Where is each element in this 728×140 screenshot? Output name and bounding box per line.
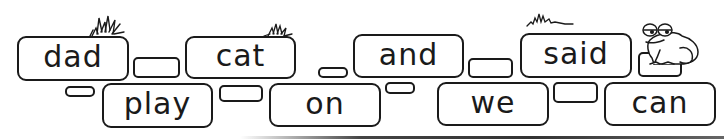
- word-label: play: [124, 86, 192, 121]
- word-brick-play[interactable]: play: [102, 83, 213, 128]
- ground-line: [240, 136, 724, 139]
- word-brick-dad[interactable]: dad: [17, 36, 129, 81]
- word-label: can: [632, 85, 689, 120]
- filler-brick: [385, 82, 415, 94]
- word-label: on: [305, 86, 344, 121]
- grass-tuft-icon: [262, 20, 298, 38]
- word-brick-on[interactable]: on: [269, 83, 381, 127]
- filler-brick: [318, 67, 348, 78]
- word-label: and: [379, 37, 438, 72]
- word-brick-said[interactable]: said: [520, 33, 632, 78]
- word-brick-we[interactable]: we: [437, 82, 549, 126]
- filler-brick: [219, 85, 263, 102]
- filler-brick: [65, 86, 95, 97]
- word-label: we: [471, 85, 516, 120]
- filler-brick: [553, 82, 598, 103]
- word-label: cat: [216, 38, 266, 73]
- frog-icon: [640, 20, 712, 68]
- filler-brick: [133, 57, 180, 78]
- word-label: said: [543, 36, 608, 71]
- word-brick-can[interactable]: can: [604, 82, 716, 126]
- filler-brick: [468, 58, 513, 78]
- word-brick-and[interactable]: and: [353, 34, 464, 78]
- grass-tuft-icon: [525, 10, 575, 30]
- word-brick-cat[interactable]: cat: [185, 36, 296, 79]
- word-label: dad: [43, 39, 102, 74]
- grass-tuft-icon: [88, 10, 128, 38]
